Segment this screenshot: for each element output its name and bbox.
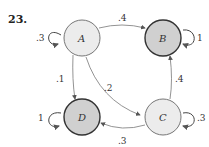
label-c-d: .3 [118, 136, 127, 146]
label-a-c: .2 [104, 83, 113, 93]
edge-a-d [73, 55, 75, 99]
label-c-c: .3 [197, 113, 206, 123]
loop-c [183, 113, 194, 127]
label-b-b: 1 [197, 33, 203, 43]
loop-d [49, 113, 61, 127]
label-a-d: .1 [56, 74, 65, 84]
node-b-label: B [158, 33, 166, 44]
edge-a-b [99, 25, 145, 28]
edge-c-b [170, 56, 172, 99]
label-a-a: .3 [36, 33, 45, 43]
node-c-label: C [159, 112, 167, 123]
label-d-d: 1 [38, 113, 44, 123]
label-c-b: .4 [175, 74, 184, 84]
edge-c-d [101, 123, 145, 128]
markov-chain-diagram: A B C D .3 .4 .1 .2 1 .4 .3 .3 1 [0, 0, 209, 147]
loop-b [183, 30, 194, 45]
node-d-label: D [77, 112, 86, 123]
node-a-label: A [77, 33, 85, 44]
loop-a [49, 32, 61, 44]
label-a-b: .4 [118, 13, 127, 23]
